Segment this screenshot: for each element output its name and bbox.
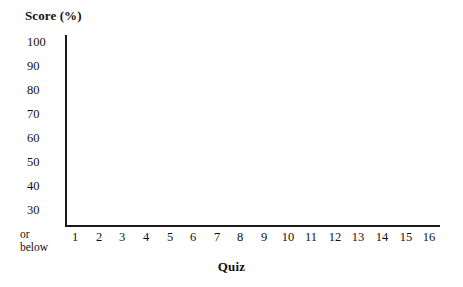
chart-container: Score (%) 10090807060504030 or below 123…: [0, 0, 463, 287]
x-axis-tick-label: 2: [87, 230, 111, 244]
x-axis-tick-label: 8: [228, 230, 252, 244]
y-axis-or-below-line2: below: [20, 241, 64, 254]
x-axis-tick-label: 13: [346, 230, 370, 244]
x-axis-tick-label: 3: [110, 230, 134, 244]
x-axis-tick-label: 9: [252, 230, 276, 244]
y-axis-tick-label: 50: [27, 155, 61, 169]
x-axis-tick-label: 12: [323, 230, 347, 244]
y-axis-tick-label: 80: [27, 83, 61, 97]
x-axis-tick-label: 14: [370, 230, 394, 244]
x-axis-tick-label: 5: [158, 230, 182, 244]
plot-area: [67, 35, 440, 225]
x-axis-line: [65, 225, 440, 227]
y-axis-or-below-line1: or: [20, 228, 64, 241]
y-axis-tick-label: 40: [27, 179, 61, 193]
x-axis-tick-label: 4: [134, 230, 158, 244]
x-axis-tick-label: 15: [394, 230, 418, 244]
x-axis-tick-label: 16: [417, 230, 441, 244]
x-axis-tick-label: 7: [205, 230, 229, 244]
y-axis-tick-label: 100: [27, 35, 61, 49]
y-axis-tick-label: 60: [27, 131, 61, 145]
x-axis-tick-label: 11: [299, 230, 323, 244]
y-axis-tick-label: 30: [27, 203, 61, 217]
x-axis-tick-label: 10: [276, 230, 300, 244]
y-axis-tick-label: 90: [27, 59, 61, 73]
y-axis-or-below-label: or below: [20, 228, 64, 253]
x-axis-title: Quiz: [0, 259, 463, 275]
x-axis-tick-label: 6: [181, 230, 205, 244]
y-axis-tick-label: 70: [27, 107, 61, 121]
x-axis-tick-label: 1: [63, 230, 87, 244]
y-axis-title: Score (%): [25, 8, 82, 24]
